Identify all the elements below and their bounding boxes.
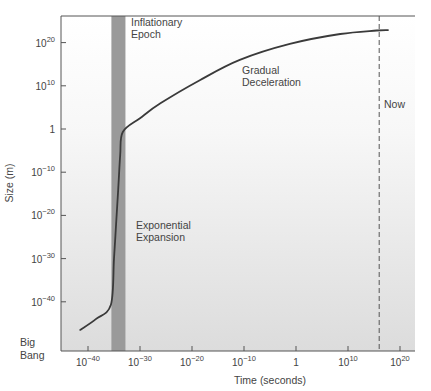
x-tick-label: 1010 bbox=[338, 354, 357, 368]
y-tick-label: 10−20 bbox=[31, 207, 55, 221]
x-tick-label: 10−40 bbox=[76, 354, 100, 368]
y-tick-label: 10−30 bbox=[31, 251, 55, 265]
now-label: Now bbox=[384, 98, 405, 110]
y-tick-label: 10−40 bbox=[31, 294, 55, 308]
big-bang-label: Big Bang bbox=[20, 336, 45, 361]
y-tick-label: 1020 bbox=[36, 35, 55, 49]
y-axis-title: Size (m) bbox=[3, 163, 15, 202]
exponential-expansion-label: ExponentialExpansion bbox=[136, 219, 191, 243]
x-tick-label: 1020 bbox=[390, 354, 409, 368]
y-tick-label: 10−10 bbox=[31, 164, 55, 178]
x-tick-label: 1 bbox=[293, 357, 299, 368]
x-tick-label: 10−10 bbox=[232, 354, 256, 368]
x-axis-title: Time (seconds) bbox=[234, 374, 306, 386]
y-tick-label: 1010 bbox=[36, 78, 55, 92]
x-tick-label: 10−30 bbox=[128, 354, 152, 368]
x-tick-label: 10−20 bbox=[180, 354, 204, 368]
chart: 10201010110−1010−2010−3010−40 10−4010−30… bbox=[0, 0, 431, 391]
y-tick-label: 1 bbox=[49, 124, 55, 135]
